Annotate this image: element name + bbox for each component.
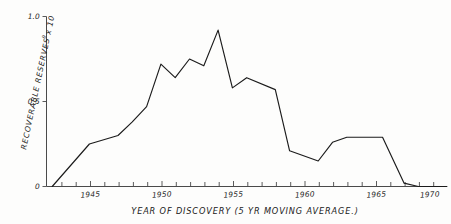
- y-tick-label-top: 1.0: [28, 12, 40, 21]
- x-tick-label-1960: 1960: [295, 189, 315, 199]
- x-tick-label-1955: 1955: [223, 189, 243, 199]
- chart-figure: 1.0 0.5 0: [0, 0, 451, 224]
- y-axis-title-group: RECOVERABLE RESERVES x 10 9: [17, 14, 56, 151]
- x-axis-minor-ticks: [62, 181, 434, 187]
- y-tick-label-zero: 0: [35, 182, 40, 191]
- x-tick-label-1970: 1970: [420, 189, 440, 199]
- x-tick-label-1945: 1945: [80, 189, 100, 199]
- x-axis-tick-labels: 1945 1950 1955 1960 1965 1970: [80, 189, 440, 199]
- y-axis-title: RECOVERABLE RESERVES x 10: [19, 14, 56, 150]
- line-chart-canvas: 1.0 0.5 0: [0, 0, 451, 224]
- x-tick-label-1965: 1965: [366, 189, 386, 199]
- x-axis-title: YEAR OF DISCOVERY (5 YR MOVING AVERAGE.): [131, 206, 358, 216]
- x-tick-label-1950: 1950: [152, 189, 172, 199]
- data-series-line: [52, 30, 447, 186]
